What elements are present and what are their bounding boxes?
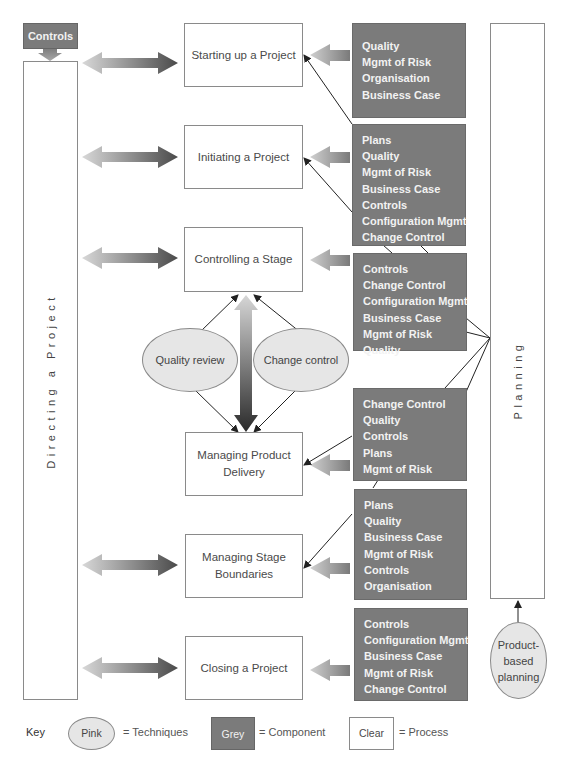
component-item: Plans xyxy=(363,445,466,461)
component-item: Mgmt of Risk xyxy=(363,461,466,477)
component-item: Quality xyxy=(363,412,466,428)
key-process-text: = Process xyxy=(399,726,448,738)
process-label: Controlling a Stage xyxy=(195,251,293,268)
component-item: Configuration Mgmt xyxy=(364,632,467,648)
process-label-line2: Delivery xyxy=(223,464,265,481)
process-label-line1: Managing Stage xyxy=(202,549,286,566)
component-box-initiating: Plans Quality Mgmt of Risk Business Case… xyxy=(352,124,466,246)
component-item: Configuration Mgmt xyxy=(362,213,465,229)
component-item: Quality xyxy=(363,342,466,358)
controls-box: Controls xyxy=(23,23,78,49)
process-managing-stage-boundaries: Managing Stage Boundaries xyxy=(185,534,303,598)
technique-label-line1: Product- xyxy=(498,637,540,653)
key-component-text: = Component xyxy=(259,726,325,738)
process-managing-product-delivery: Managing Product Delivery xyxy=(185,432,303,496)
key-swatch-label: Grey xyxy=(222,728,245,740)
key-title: Key xyxy=(26,726,45,738)
planning-label: Planning xyxy=(512,340,524,419)
component-item: Mgmt of Risk xyxy=(364,665,467,681)
component-item: Mgmt of Risk xyxy=(362,164,465,180)
key-techniques-swatch: Pink xyxy=(68,717,115,750)
directing-label: Directing a Project xyxy=(45,293,57,468)
component-box-managing-product-delivery: Change Control Quality Controls Plans Mg… xyxy=(353,388,467,481)
process-label: Starting up a Project xyxy=(191,47,295,64)
process-starting-up: Starting up a Project xyxy=(184,23,303,87)
component-item: Controls xyxy=(364,562,466,578)
component-item: Quality xyxy=(362,38,465,54)
component-item: Quality xyxy=(364,513,466,529)
process-controlling-stage: Controlling a Stage xyxy=(184,227,303,292)
component-item: Controls xyxy=(362,197,465,213)
technique-product-based-planning: Product- based planning xyxy=(490,622,547,699)
component-item: Mgmt of Risk xyxy=(364,546,466,562)
controls-down-arrow xyxy=(38,48,62,61)
technique-change-control: Change control xyxy=(253,328,349,392)
component-item: Organisation xyxy=(364,578,466,594)
technique-label: Change control xyxy=(264,353,339,368)
process-label: Initiating a Project xyxy=(198,149,289,166)
component-item: Change Control xyxy=(364,681,467,697)
component-box-controlling-stage: Controls Change Control Configuration Mg… xyxy=(353,253,467,351)
component-item: Configuration Mgmt xyxy=(363,293,466,309)
component-item: Business Case xyxy=(364,648,467,664)
component-item: Plans xyxy=(362,132,465,148)
key-swatch-label: Pink xyxy=(81,726,101,741)
controls-label: Controls xyxy=(28,30,73,42)
component-item: Controls xyxy=(363,428,466,444)
technique-label: Quality review xyxy=(155,353,224,368)
component-item: Organisation xyxy=(362,70,465,86)
process-label-line2: Boundaries xyxy=(215,566,273,583)
component-item: Business Case xyxy=(363,310,466,326)
component-item: Business Case xyxy=(364,529,466,545)
component-item: Change Control xyxy=(363,277,466,293)
component-item: Plans xyxy=(364,497,466,513)
component-item: Quality xyxy=(362,148,465,164)
process-label: Closing a Project xyxy=(201,660,288,677)
component-item: Business Case xyxy=(362,181,465,197)
component-box-closing: Controls Configuration Mgmt Business Cas… xyxy=(354,608,468,701)
technique-label-line3: planning xyxy=(498,669,540,685)
component-item: Controls xyxy=(364,616,467,632)
key-process-swatch: Clear xyxy=(349,717,394,750)
component-item: Change Control xyxy=(363,396,466,412)
technique-label-line2: based xyxy=(504,653,534,669)
component-item: Mgmt of Risk xyxy=(362,54,465,70)
process-closing: Closing a Project xyxy=(185,636,303,700)
component-box-starting-up: Quality Mgmt of Risk Organisation Busine… xyxy=(352,23,466,118)
component-item: Controls xyxy=(363,261,466,277)
technique-quality-review: Quality review xyxy=(142,328,238,392)
process-label-line1: Managing Product xyxy=(197,447,290,464)
component-item: Change Control xyxy=(362,229,465,245)
component-item: Business Case xyxy=(362,87,465,103)
key-swatch-label: Clear xyxy=(359,725,384,742)
component-item: Mgmt of Risk xyxy=(363,326,466,342)
planning-box: Planning xyxy=(490,23,545,599)
key-component-swatch: Grey xyxy=(211,717,255,750)
component-box-managing-stage-boundaries: Plans Quality Business Case Mgmt of Risk… xyxy=(354,489,467,600)
directing-a-project-box: Directing a Project xyxy=(23,61,78,700)
process-initiating: Initiating a Project xyxy=(184,125,303,189)
key-techniques-text: = Techniques xyxy=(123,726,188,738)
